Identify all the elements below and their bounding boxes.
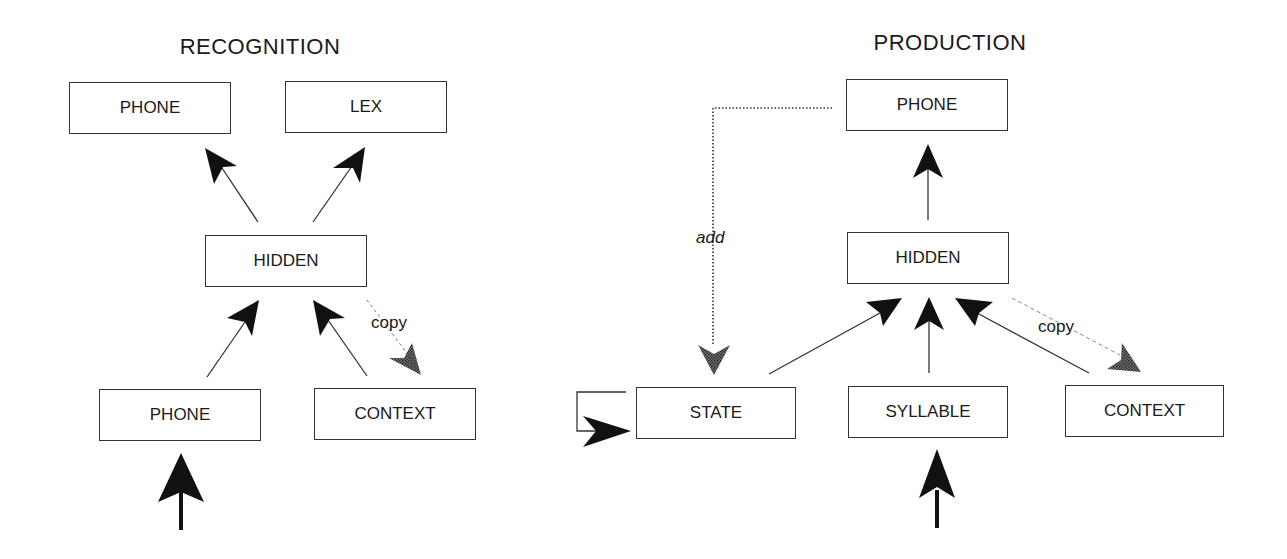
arrow-hidden-to-phone — [205, 148, 258, 222]
recognition-phone-input-node: PHONE — [99, 389, 261, 441]
recognition-phone-output-node: PHONE — [69, 82, 231, 134]
arrow-state-to-hidden — [769, 298, 902, 374]
recognition-hidden-node: HIDDEN — [205, 235, 367, 287]
copy-arrow-left — [367, 300, 421, 375]
arrow-syllable-to-hidden — [914, 297, 944, 373]
copy-arrow-right — [1012, 298, 1141, 372]
production-phone-output-node: PHONE — [846, 79, 1008, 131]
recognition-lex-node: LEX — [285, 81, 447, 133]
recognition-context-node: CONTEXT — [314, 388, 476, 440]
arrow-hidden-to-lex — [313, 147, 365, 222]
input-arrow-recognition — [158, 453, 204, 530]
state-self-loop — [577, 392, 631, 447]
arrow-context-to-hidden — [313, 300, 367, 376]
production-state-node: STATE — [636, 387, 796, 439]
arrow-hidden-to-phone-out — [913, 144, 943, 220]
production-add-label: add — [696, 228, 724, 248]
recognition-copy-label: copy — [371, 313, 407, 333]
production-context-node: CONTEXT — [1065, 385, 1224, 437]
input-arrow-production — [919, 449, 955, 528]
production-hidden-node: HIDDEN — [847, 232, 1009, 284]
production-copy-label: copy — [1038, 317, 1074, 337]
production-syllable-node: SYLLABLE — [848, 386, 1008, 438]
arrow-phone-to-hidden — [207, 300, 259, 377]
